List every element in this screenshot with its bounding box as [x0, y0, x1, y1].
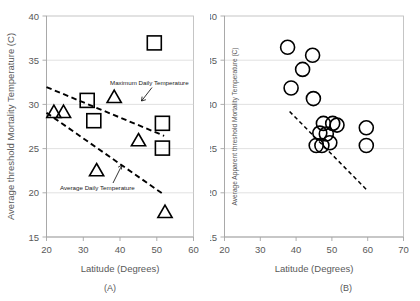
- data-marker-circle: [284, 81, 298, 95]
- y-ticklabel-a-40: 40: [28, 11, 39, 22]
- panel-caption-a: (A): [104, 283, 116, 293]
- panel-a-svg: 40 35 30 25 20 15 20 30 40 50 60 Latitud…: [0, 0, 210, 301]
- data-marker-triangle: [47, 105, 61, 117]
- x-ticklabel-a-60: 60: [188, 244, 199, 255]
- panel-a: 40 35 30 25 20 15 20 30 40 50 60 Latitud…: [0, 0, 210, 301]
- data-marker-square: [147, 36, 161, 50]
- annotation-average-daily-temperature: Average Daily Temperature: [60, 184, 135, 191]
- y-ticklabel-b-30: 30: [210, 99, 217, 110]
- y-ticklabel-a-30: 30: [28, 99, 39, 110]
- y-ticklabel-b-40: 40: [210, 11, 217, 22]
- y-ticklabel-b-20: 20: [210, 187, 217, 198]
- panel-caption-b: (B): [340, 283, 352, 293]
- data-marker-square: [155, 141, 169, 155]
- data-marker-circle: [359, 139, 373, 153]
- data-marker-circle: [281, 40, 295, 54]
- x-ticklabel-b-30: 30: [255, 244, 266, 255]
- y-axis-title-a: Average threshold Mortality Temperature …: [5, 33, 16, 220]
- x-ticklabel-a-50: 50: [152, 244, 163, 255]
- x-ticklabel-a-40: 40: [115, 244, 126, 255]
- y-ticklabel-a-35: 35: [28, 55, 39, 66]
- annotation-maximum-daily-temperature: Maximum Daily Temperature: [110, 79, 189, 86]
- panel-b: 40 35 30 25 20 15 20 30 40 50 60 70 Lati…: [210, 0, 420, 301]
- data-marker-circle: [323, 136, 337, 150]
- y-ticklabel-a-25: 25: [28, 143, 39, 154]
- data-marker-triangle: [90, 164, 104, 176]
- x-axis-title-a: Latitude (Degrees): [81, 263, 160, 274]
- data-marker-square: [155, 116, 169, 130]
- data-marker-triangle: [131, 134, 145, 146]
- x-ticklabel-b-20: 20: [219, 244, 230, 255]
- data-marker-circle: [296, 62, 310, 76]
- y-ticklabel-b-35: 35: [210, 55, 217, 66]
- y-ticklabel-b-25: 25: [210, 143, 217, 154]
- y-ticklabel-b-15: 15: [210, 232, 217, 243]
- y-ticklabel-a-20: 20: [28, 187, 39, 198]
- data-marker-circle: [306, 92, 320, 106]
- x-ticklabel-a-20: 20: [41, 244, 52, 255]
- data-marker-triangle: [56, 105, 70, 117]
- x-ticklabel-b-40: 40: [291, 244, 302, 255]
- annotation-leader-avg-icon: [113, 165, 122, 183]
- x-ticklabel-b-50: 50: [327, 244, 338, 255]
- x-ticklabel-a-30: 30: [78, 244, 89, 255]
- panel-b-svg: 40 35 30 25 20 15 20 30 40 50 60 70 Lati…: [210, 0, 420, 301]
- annotation-leader-max-icon: [142, 88, 153, 102]
- plot-frame-a: [47, 16, 194, 237]
- y-axis-title-b: Average Apparent threshold Mortality Tem…: [231, 47, 239, 205]
- x-ticklabel-b-70: 70: [398, 244, 409, 255]
- trendline-average-daily-temperature: [47, 113, 163, 194]
- figure-two-panel-scatter: 40 35 30 25 20 15 20 30 40 50 60 Latitud…: [0, 0, 420, 301]
- y-ticklabel-a-15: 15: [28, 232, 39, 243]
- data-marker-triangle: [107, 90, 121, 102]
- data-marker-square: [87, 114, 101, 128]
- x-ticklabel-b-60: 60: [362, 244, 373, 255]
- x-axis-title-b: Latitude (Degrees): [275, 263, 354, 274]
- data-marker-circle: [359, 121, 373, 135]
- data-marker-triangle: [158, 205, 172, 217]
